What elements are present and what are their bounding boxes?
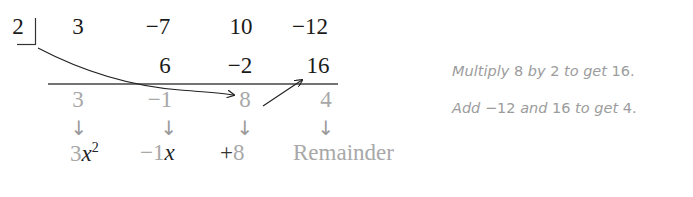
note-number: 2 — [550, 63, 559, 79]
note-word: Add — [452, 100, 480, 116]
division-lines — [0, 0, 693, 197]
note-number: −12 — [485, 100, 516, 116]
note-word: to get — [575, 100, 618, 116]
note-number: 8 — [514, 63, 523, 79]
curved-arrow-icon — [38, 48, 234, 95]
note-word: and — [520, 100, 547, 116]
note-add: Add −12 and 16 to get 4. — [452, 100, 637, 116]
note-word: Multiply — [452, 63, 509, 79]
note-number: 4. — [623, 100, 637, 116]
note-word: to get — [564, 63, 607, 79]
note-number: 16. — [612, 63, 635, 79]
note-number: 16 — [552, 100, 570, 116]
note-multiply: Multiply 8 by 2 to get 16. — [452, 63, 635, 79]
note-word: by — [528, 63, 546, 79]
